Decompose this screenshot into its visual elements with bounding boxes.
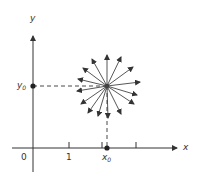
arrow xyxy=(107,57,121,86)
arrow xyxy=(107,86,108,118)
y0-point xyxy=(30,83,35,88)
vector-field-diagram xyxy=(0,0,197,180)
tick-label-1: 1 xyxy=(66,153,72,162)
y0-label: y0 xyxy=(17,81,26,91)
arrow xyxy=(81,86,107,104)
radial-arrows xyxy=(77,55,140,118)
arrow xyxy=(92,59,107,86)
arrow xyxy=(77,86,107,91)
arrow xyxy=(98,86,107,116)
x0-label-sub: 0 xyxy=(107,156,111,163)
x-axis-label: x xyxy=(183,143,188,152)
y-axis-label: y xyxy=(30,14,35,23)
x0-point xyxy=(104,145,109,150)
origin-label: 0 xyxy=(21,153,27,162)
arrow xyxy=(88,86,107,113)
x0-label: x0 xyxy=(102,153,111,163)
arrow xyxy=(107,86,137,95)
y0-label-sub: 0 xyxy=(22,84,26,91)
